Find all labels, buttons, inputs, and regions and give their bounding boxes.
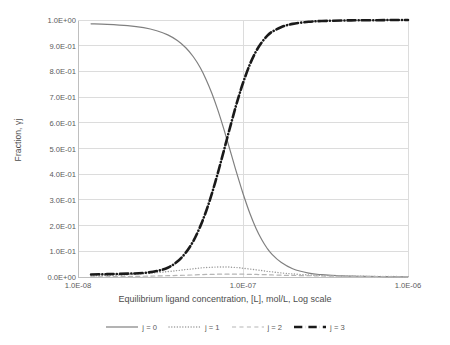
legend-label: j = 3: [330, 323, 345, 332]
series-line-3: [91, 20, 408, 274]
legend-item-2[interactable]: j = 2: [231, 322, 283, 332]
chart-legend: j = 0j = 1j = 2j = 3: [0, 322, 450, 332]
legend-label: j = 1: [205, 323, 220, 332]
series-line-0: [91, 24, 408, 277]
chart-container: Fraction, γj 0.0E+001.0E-012.0E-013.0E-0…: [0, 0, 450, 345]
series-line-1: [91, 267, 408, 277]
x-tick-label: 1.0E-07: [230, 281, 257, 290]
legend-item-1[interactable]: j = 1: [168, 322, 220, 332]
legend-swatch-icon: [168, 322, 202, 332]
x-axis-title: Equilibrium ligand concentration, [L], m…: [0, 294, 450, 304]
legend-swatch-icon: [231, 322, 265, 332]
x-tick-label: 1.0E-06: [395, 281, 422, 290]
legend-item-0[interactable]: j = 0: [105, 322, 157, 332]
legend-label: j = 0: [142, 323, 157, 332]
legend-label: j = 2: [268, 323, 283, 332]
x-axis-tick-labels: 1.0E-081.0E-071.0E-06: [0, 281, 450, 295]
legend-swatch-icon: [105, 322, 139, 332]
legend-swatch-icon: [293, 322, 327, 332]
legend-item-3[interactable]: j = 3: [293, 322, 345, 332]
x-tick-label: 1.0E-08: [65, 281, 92, 290]
